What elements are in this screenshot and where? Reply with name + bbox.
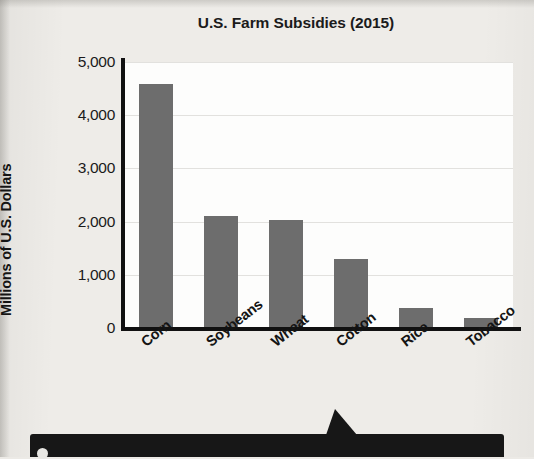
y-tick-label: 4,000 — [45, 106, 115, 124]
plot-area — [123, 62, 513, 328]
gridline — [123, 62, 513, 63]
bar — [269, 220, 303, 328]
gridline — [123, 115, 513, 116]
y-tick-label: 0 — [45, 319, 115, 337]
arrow-pointer-icon — [326, 409, 357, 435]
gridline — [123, 222, 513, 223]
x-axis-line — [121, 327, 521, 331]
y-axis-line — [121, 58, 125, 330]
y-tick-label: 3,000 — [45, 159, 115, 177]
y-tick-label: 2,000 — [45, 213, 115, 231]
y-axis-title: Millions of U.S. Dollars — [0, 164, 14, 316]
bottom-banner — [30, 434, 504, 457]
bar — [204, 216, 238, 328]
gridline — [123, 168, 513, 169]
y-tick-label: 1,000 — [45, 266, 115, 284]
bar-chart: U.S. Farm Subsidies (2015) Millions of U… — [0, 0, 534, 400]
chart-title: U.S. Farm Subsidies (2015) — [0, 14, 534, 32]
y-tick-label: 5,000 — [45, 53, 115, 71]
circle-bullet-icon — [37, 448, 48, 459]
bar — [139, 84, 173, 328]
gridline — [123, 275, 513, 276]
